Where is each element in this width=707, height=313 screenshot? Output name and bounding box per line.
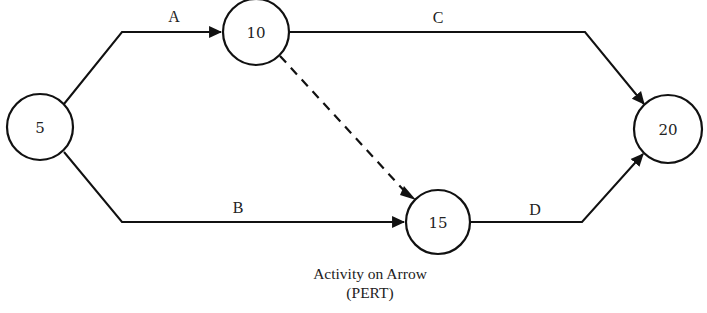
edge-b: B [64, 152, 404, 222]
caption-subtitle: (PERT) [250, 283, 490, 302]
edge-dummy-line [280, 56, 410, 197]
node-20-label: 20 [658, 121, 677, 139]
edge-c: C [290, 9, 644, 104]
edge-d: D [471, 154, 643, 222]
edge-a-label: A [168, 8, 180, 25]
edge-d-line [471, 154, 643, 222]
node-15-label: 15 [428, 214, 447, 232]
edge-c-label: C [433, 9, 444, 26]
edge-c-line [290, 32, 644, 104]
edge-dummy [280, 56, 416, 200]
node-15: 15 [406, 190, 470, 254]
node-10-label: 10 [246, 24, 265, 42]
node-10: 10 [223, 0, 289, 65]
node-5-label: 5 [35, 119, 45, 137]
diagram-caption: Activity on Arrow (PERT) [250, 264, 490, 302]
edge-a-line [64, 32, 221, 104]
edge-b-label: B [233, 199, 244, 216]
caption-title: Activity on Arrow [250, 264, 490, 283]
node-20: 20 [634, 95, 702, 163]
edge-d-label: D [529, 201, 541, 218]
node-5: 5 [7, 94, 73, 160]
edge-a: A [64, 8, 221, 104]
